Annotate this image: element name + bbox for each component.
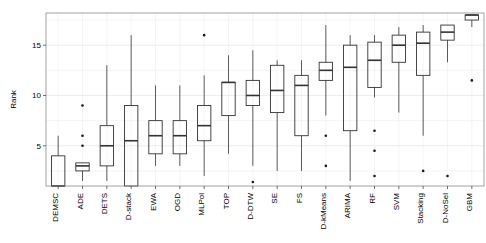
x-tick-label: MLPol [197,193,206,216]
x-tick-label: D-DTW [246,193,255,220]
x-tick-label: D-kMeans [319,193,328,229]
outlier-point [373,175,376,178]
outlier-point [203,34,206,37]
x-tick-label: FS [295,193,304,203]
x-tick-label: Stacking [416,193,425,224]
outlier-point [446,175,449,178]
x-tick-label: TOP [222,193,231,209]
x-tick-label: GBM [465,193,474,212]
outlier-point [81,134,84,137]
outlier-point [373,129,376,132]
x-tick-label: ADE [76,193,85,209]
outlier-point [422,170,425,173]
outlier-point [81,104,84,107]
x-tick-label: RF [368,193,377,204]
x-tick-label: DEMSC [51,193,60,222]
outlier-point [373,149,376,152]
y-tick-label: 10 [32,91,41,100]
outlier-point [325,134,328,137]
chart-canvas: 51015RankDEMSCADEDETSD-stackEWAOGDMLPolT… [0,0,486,243]
x-tick-label: OGD [173,193,182,211]
outlier-point [471,79,474,82]
outlier-point [252,181,255,184]
x-tick-label: D-stack [124,192,133,220]
x-tick-label: SE [270,193,279,204]
y-axis-title: Rank [9,89,18,109]
chart-background [0,0,486,243]
x-tick-label: ARIMA [343,192,352,218]
y-tick-label: 15 [32,41,41,50]
y-tick-label: 5 [37,142,42,151]
outlier-point [325,165,328,168]
x-tick-label: SVM [392,193,401,211]
outlier-point [81,144,84,147]
x-tick-label: D-NoSel [441,193,450,223]
x-tick-label: DETS [100,193,109,214]
boxplot-chart: 51015RankDEMSCADEDETSD-stackEWAOGDMLPolT… [0,0,486,243]
x-tick-label: EWA [149,192,158,211]
